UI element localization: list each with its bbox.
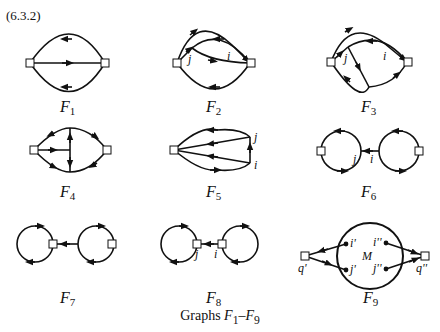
external-vertex: [30, 146, 38, 154]
vertex-label-i: i: [254, 158, 257, 172]
external-vertex: [404, 58, 412, 66]
vertex-label-i: i: [214, 247, 217, 261]
vertex-label-j: j: [252, 130, 258, 144]
vertex-label-q-prime: q': [298, 261, 307, 275]
external-vertex: [49, 240, 57, 248]
graph-f5: [170, 129, 250, 170]
external-vertex: [247, 59, 255, 67]
graph-f1: [26, 34, 109, 92]
graph-title-f3: F3: [360, 98, 377, 117]
vertex-label-i-dprime: i'': [373, 235, 382, 249]
graphs-figure: j i j i j i j i j i i' j' i'' j'' q' q''…: [0, 0, 440, 332]
external-vertex: [173, 59, 181, 67]
external-vertex: [421, 252, 429, 260]
graph-f4: [30, 128, 111, 172]
graph-f2: [173, 31, 255, 89]
external-vertex: [317, 147, 325, 155]
graph-title-f2: F2: [205, 98, 221, 117]
graph-f3: [327, 29, 412, 92]
graph-title-f6: F6: [360, 183, 377, 202]
graph-f8: [161, 226, 258, 262]
vertex-label-i-prime: i': [350, 236, 356, 250]
graph-title-f7: F7: [59, 289, 76, 308]
external-vertex: [170, 146, 178, 154]
subgraph-label-m: M: [361, 249, 373, 263]
external-vertex: [103, 146, 111, 154]
vertex-label-j: j: [351, 152, 357, 166]
figure-caption: Graphs F1–F9: [0, 308, 440, 327]
vertex-label-i: i: [370, 152, 373, 166]
external-vertex: [415, 147, 423, 155]
vertex-label-i: i: [227, 49, 230, 63]
vertex-label-j-prime: j': [348, 262, 356, 276]
vertex-label-i: i: [383, 49, 386, 63]
graph-title-f8: F8: [205, 289, 222, 308]
external-vertex: [26, 59, 34, 67]
external-vertex: [301, 252, 309, 260]
graph-title-f5: F5: [205, 183, 222, 202]
graph-title-f4: F4: [59, 183, 76, 202]
vertex-label-j: j: [342, 51, 348, 65]
graph-f7: [17, 226, 116, 262]
external-vertex: [218, 240, 226, 248]
graph-title-f9: F9: [362, 289, 379, 308]
external-vertex: [108, 240, 116, 248]
vertex-label-j-dprime: j'': [371, 261, 382, 275]
external-vertex: [327, 58, 335, 66]
external-vertex: [101, 59, 109, 67]
vertex-label-q-dprime: q'': [416, 261, 428, 275]
graph-title-f1: F1: [59, 98, 75, 117]
